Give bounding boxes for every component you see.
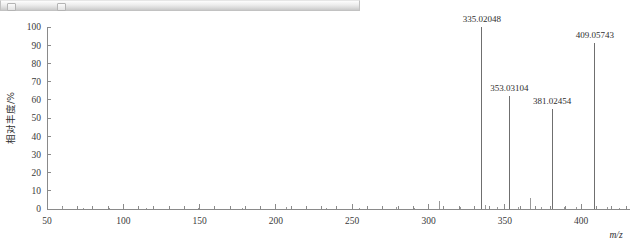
y-tick-label: 90 bbox=[32, 41, 42, 51]
mass-spectrum-chart: 0102030405060708090100501001502002503003… bbox=[0, 0, 638, 246]
y-tick-label: 70 bbox=[32, 77, 42, 87]
x-tick-label: 150 bbox=[192, 216, 207, 226]
y-tick-label: 60 bbox=[32, 95, 42, 105]
x-tick-label: 100 bbox=[116, 216, 131, 226]
mass-spectrum-svg: 0102030405060708090100501001502002503003… bbox=[0, 0, 638, 246]
y-tick-label: 80 bbox=[32, 59, 42, 69]
x-tick-label: 300 bbox=[421, 216, 436, 226]
y-tick-label: 10 bbox=[32, 186, 42, 196]
x-tick-label: 350 bbox=[498, 216, 513, 226]
y-tick-label: 40 bbox=[32, 132, 42, 142]
x-tick-label: 400 bbox=[574, 216, 589, 226]
y-tick-label: 30 bbox=[32, 150, 42, 160]
y-tick-label: 50 bbox=[32, 113, 42, 123]
y-tick-label: 0 bbox=[36, 204, 41, 214]
y-tick-label: 100 bbox=[27, 22, 42, 32]
x-tick-label: 200 bbox=[269, 216, 284, 226]
peak-label: 353.03104 bbox=[490, 83, 529, 93]
x-tick-label: 50 bbox=[42, 216, 52, 226]
y-axis-title: 相对丰度/% bbox=[5, 92, 16, 144]
peak-label: 381.02454 bbox=[533, 96, 572, 106]
x-axis-title: m/z bbox=[609, 230, 623, 240]
y-tick-label: 20 bbox=[32, 168, 42, 178]
peak-label: 409.05743 bbox=[576, 30, 615, 40]
peak-label: 335.02048 bbox=[463, 14, 502, 24]
x-tick-label: 250 bbox=[345, 216, 360, 226]
